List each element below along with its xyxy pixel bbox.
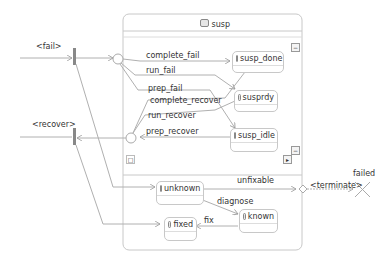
transition-complete-recover[interactable]: complete_recover	[150, 97, 222, 105]
transition-prep-recover[interactable]: prep_recover	[146, 128, 198, 136]
state-unknown[interactable]: unknown	[156, 181, 204, 205]
trigger-recover-label: <recover>	[32, 121, 76, 129]
trigger-terminate-label: <terminate>	[310, 182, 363, 190]
state-icon	[234, 132, 236, 139]
transition-complete-fail[interactable]: complete_fail	[146, 52, 200, 60]
state-susp-done[interactable]: susp_done	[232, 51, 284, 73]
transition-fix[interactable]: fix	[204, 217, 214, 225]
choice-fail	[113, 54, 123, 64]
state-icon	[236, 55, 238, 62]
state-susprdy[interactable]: susprdy	[234, 90, 278, 112]
transition-unfixable[interactable]: unfixable	[237, 177, 274, 185]
transition-diagnose[interactable]: diagnose	[217, 198, 253, 206]
state-icon	[200, 19, 209, 27]
trigger-fail-label: <fail>	[36, 43, 62, 51]
fork-bar-fail	[73, 48, 76, 65]
choice-recover	[126, 133, 136, 143]
state-susp-idle[interactable]: susp_idle	[230, 128, 278, 152]
collapse-icon[interactable]: −	[291, 43, 300, 52]
state-icon	[160, 185, 162, 192]
state-icon	[243, 213, 246, 220]
final-state-label: failed	[353, 170, 375, 178]
fork-bar-recover	[73, 128, 76, 145]
state-icon	[238, 94, 241, 101]
composite-title: susp	[200, 19, 230, 29]
collapse-icon[interactable]: −	[291, 146, 300, 155]
state-icon	[168, 221, 171, 228]
junction-unfixable	[299, 185, 307, 193]
region-marker-icon: □	[126, 155, 135, 164]
transition-run-fail[interactable]: run_fail	[146, 67, 176, 75]
transition-prep-fail[interactable]: prep_fail	[148, 85, 182, 93]
state-fixed[interactable]: fixed	[164, 217, 197, 241]
expand-arrow-icon[interactable]: ▸	[283, 155, 292, 164]
transition-run-recover[interactable]: run_recover	[148, 112, 196, 120]
state-known[interactable]: known	[239, 209, 278, 233]
